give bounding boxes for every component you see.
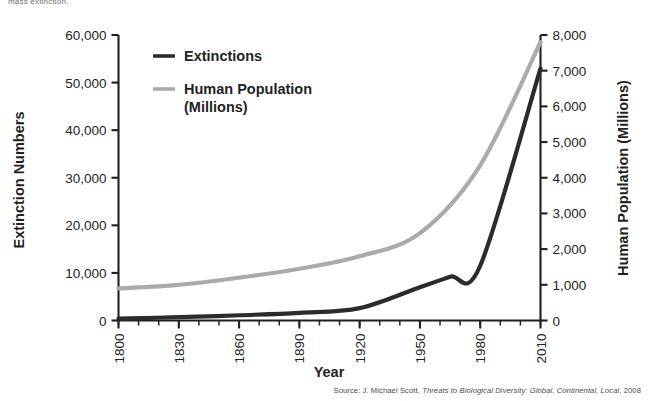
left-axis-tick-label: 30,000 — [65, 171, 106, 186]
x-axis-title: Year — [314, 364, 345, 380]
chart-legend: Extinctions Human Population (Millions) — [153, 48, 312, 115]
x-axis-tick-label: 1920 — [353, 334, 368, 364]
y2-axis-title: Human Population (Millions) — [615, 80, 631, 276]
left-axis-tick-label: 60,000 — [65, 28, 106, 43]
right-axis-tick-label: 6,000 — [553, 99, 587, 114]
chart-figure: mass extinction. 010,00020,00030,00040,0… — [0, 0, 649, 401]
x-axis: 18001830186018901920195019802010 — [112, 321, 549, 364]
dual-axis-line-chart: 010,00020,00030,00040,00050,00060,000 01… — [0, 0, 649, 401]
x-axis-tick-label: 1980 — [473, 334, 488, 364]
source-suffix: , 2008 — [619, 386, 641, 395]
legend-label-extinctions: Extinctions — [184, 48, 262, 64]
right-axis-tick-label: 8,000 — [553, 28, 587, 43]
series-extinctions — [119, 68, 541, 318]
legend-label-human-population: Human Population — [184, 81, 312, 97]
x-axis-tick-label: 2010 — [534, 334, 549, 364]
right-axis-tick-label: 2,000 — [553, 242, 587, 257]
left-axis-tick-label: 20,000 — [65, 218, 106, 233]
left-axis-tick-label: 0 — [99, 314, 107, 329]
left-axis-tick-label: 40,000 — [65, 123, 106, 138]
right-axis-tick-label: 4,000 — [553, 171, 587, 186]
right-axis-tick-label: 7,000 — [553, 64, 587, 79]
left-axis-tick-label: 50,000 — [65, 76, 106, 91]
y-axis-title: Extinction Numbers — [11, 112, 27, 249]
right-axis-tick-label: 0 — [553, 314, 561, 329]
x-axis-tick-label: 1800 — [112, 334, 127, 364]
x-axis-tick-label: 1890 — [292, 334, 307, 364]
x-axis-tick-label: 1860 — [232, 334, 247, 364]
source-attribution: Source: J. Michael Scott, Threats to Bio… — [333, 386, 641, 395]
right-axis-tick-label: 3,000 — [553, 206, 587, 221]
left-axis: 010,00020,00030,00040,00050,00060,000 — [65, 28, 118, 329]
x-axis-tick-label: 1950 — [413, 334, 428, 364]
left-axis-tick-label: 10,000 — [65, 266, 106, 281]
x-axis-tick-label: 1830 — [172, 334, 187, 364]
series-human-population — [119, 42, 541, 288]
source-work-title: Threats to Biological Diversity: Global,… — [422, 386, 619, 395]
right-axis-tick-label: 1,000 — [553, 278, 587, 293]
source-prefix: Source: J. Michael Scott, — [333, 386, 422, 395]
right-axis: 01,0002,0003,0004,0005,0006,0007,0008,00… — [541, 28, 587, 329]
right-axis-tick-label: 5,000 — [553, 135, 587, 150]
legend-label-human-population-units: (Millions) — [184, 99, 248, 115]
